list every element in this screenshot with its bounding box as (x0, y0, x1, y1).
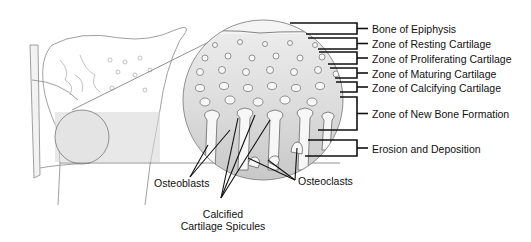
magnified-region-marker (55, 110, 109, 164)
spicules-label-line1: Calcified (178, 208, 268, 220)
zone-label-calcifying: Zone of Calcifying Cartilage (372, 82, 501, 94)
zone-label-resting: Zone of Resting Cartilage (372, 38, 491, 50)
zone-label-new-bone: Zone of New Bone Formation (372, 108, 509, 120)
zone-label-erosion: Erosion and Deposition (372, 143, 481, 155)
spicules-label: Calcified Cartilage Spicules (178, 208, 268, 232)
zone-label-maturing: Zone of Maturing Cartilage (372, 68, 496, 80)
osteoclasts-label: Osteoclasts (298, 175, 353, 187)
zone-label-proliferating: Zone of Proliferating Cartilage (372, 53, 512, 65)
illustration (0, 0, 531, 242)
epiphysis-texture (60, 55, 152, 95)
zone-label-epiphysis: Bone of Epiphysis (372, 23, 456, 35)
spicules-label-line2: Cartilage Spicules (178, 220, 268, 232)
bone-growth-diagram: Bone of Epiphysis Zone of Resting Cartil… (0, 0, 531, 242)
osteoblasts-label: Osteoblasts (154, 177, 209, 189)
